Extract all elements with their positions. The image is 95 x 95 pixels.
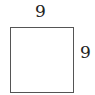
square-shape — [10, 27, 74, 93]
right-side-length-label: 9 — [80, 44, 91, 61]
square-diagram: 9 9 — [0, 0, 95, 95]
top-side-length-label: 9 — [35, 3, 46, 20]
